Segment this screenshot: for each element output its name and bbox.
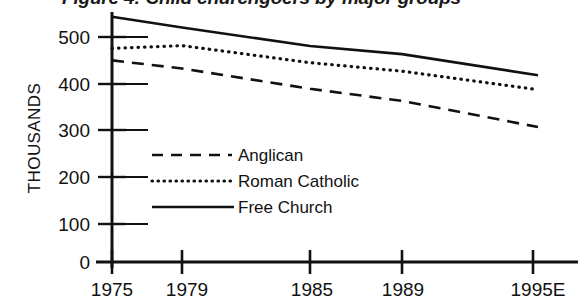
x-tick-label-1985: 1985 [291, 279, 333, 300]
y-tick-label-300: 300 [58, 120, 90, 141]
series-line-anglican [112, 60, 538, 127]
chart-legend: Anglican Roman Catholic Free Church [152, 146, 359, 217]
x-tick-label-1975: 1975 [91, 279, 133, 300]
chart-figure: Figure 4: Child churchgoers by major gro… [0, 0, 585, 304]
x-tick-label-1979: 1979 [166, 279, 208, 300]
legend-label-roman-catholic: Roman Catholic [238, 172, 359, 191]
y-tick-label-200: 200 [58, 167, 90, 188]
legend-label-anglican: Anglican [238, 146, 303, 165]
y-tick-label-100: 100 [58, 214, 90, 235]
y-tick-label-400: 400 [58, 74, 90, 95]
x-tick-label-1995E: 1995E [511, 279, 566, 300]
line-chart-plot: 500 400 300 200 100 0 1975 1979 1985 198… [0, 0, 585, 304]
x-tick-label-1989: 1989 [382, 279, 424, 300]
y-tick-label-0: 0 [79, 252, 90, 273]
y-tick-label-500: 500 [58, 27, 90, 48]
legend-label-free-church: Free Church [238, 198, 332, 217]
